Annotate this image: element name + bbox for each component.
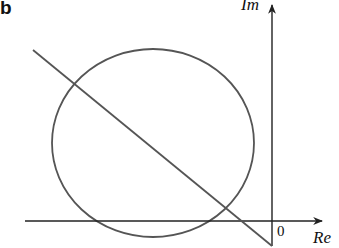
diagram-canvas <box>0 0 339 248</box>
straight-line <box>33 50 272 246</box>
panel-label: b <box>0 0 12 19</box>
imaginary-axis-label: Im <box>241 0 259 15</box>
real-axis-label: Re <box>313 228 331 248</box>
circle-curve <box>52 49 254 237</box>
origin-label: 0 <box>277 223 285 240</box>
